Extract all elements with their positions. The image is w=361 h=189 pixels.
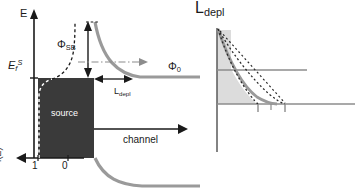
band-diagram-graphic xyxy=(0,0,200,189)
energy-axis-arrowhead xyxy=(30,9,38,19)
source-region xyxy=(38,78,94,158)
ldepl-base-right: L xyxy=(195,0,204,16)
phi-sb-label-left: ΦSB xyxy=(57,39,76,50)
channel-axis-arrowhead xyxy=(178,124,188,134)
fermi-sup: S xyxy=(17,58,22,67)
phi-sb-base-left: Φ xyxy=(57,38,66,50)
phi-sb-arrow-head-down xyxy=(84,68,92,78)
figure-canvas: E EfS ΦSB Φ0 Ldepl source channel f(E) 1… xyxy=(0,0,361,189)
tunneling-plot-panel: ΦSB dWKB E 0 0.5 1.0 Ldepl xyxy=(195,0,361,189)
fE-axis-arrowhead xyxy=(16,153,26,163)
ldepl-label-left: Ldepl xyxy=(114,87,131,96)
ldepl-sub-left: depl xyxy=(119,90,131,97)
phi-sb-sub-left: SB xyxy=(66,43,76,52)
ldepl-sub-right: depl xyxy=(204,6,225,18)
source-label: source xyxy=(51,109,78,118)
conduction-band-curve xyxy=(95,22,200,77)
shaded-barrier-area-fill xyxy=(217,30,231,104)
fE-tick-label-one: 1 xyxy=(32,161,38,171)
ldepl-label-right: Ldepl xyxy=(195,0,224,16)
ldepl-arrow-head-left xyxy=(94,75,103,83)
band-diagram-panel: E EfS ΦSB Φ0 Ldepl source channel f(E) 1… xyxy=(0,0,200,189)
energy-axis-label: E xyxy=(20,8,27,19)
fE-tick-label-zero: 0 xyxy=(62,161,68,171)
fE-axis-label: f(E) xyxy=(0,148,3,163)
fermi-level-label: EfS xyxy=(8,60,22,71)
phi-zero-label: Φ0 xyxy=(168,61,181,72)
tunneling-plot-graphic xyxy=(195,0,361,189)
phi-zero-sub: 0 xyxy=(177,65,181,74)
tunneling-direction-arrowhead xyxy=(139,58,148,66)
channel-label: channel xyxy=(123,135,158,145)
valence-band-curve xyxy=(95,158,200,186)
phi-zero-base: Φ xyxy=(168,60,177,72)
